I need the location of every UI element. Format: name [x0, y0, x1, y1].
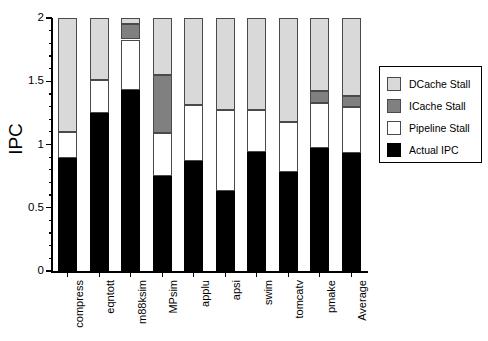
- x-tick: [193, 271, 194, 277]
- y-tick-label: 1.5: [28, 76, 44, 88]
- x-tick-label: apsi: [230, 280, 242, 300]
- bar-segment-dcache: [184, 18, 203, 105]
- legend-swatch-dcache: [387, 77, 401, 91]
- bar-segment-pipeline: [310, 103, 329, 149]
- bar-segment-dcache: [58, 18, 77, 132]
- y-tick: [49, 245, 53, 246]
- y-tick: [46, 17, 52, 18]
- y-tick: [49, 194, 53, 195]
- bar-segment-actual: [58, 158, 77, 271]
- y-tick: [49, 131, 53, 132]
- y-tick: [49, 30, 53, 31]
- legend-label: Pipeline Stall: [409, 122, 470, 134]
- bar-segment-dcache: [279, 18, 298, 122]
- legend-label: Actual IPC: [409, 144, 459, 156]
- legend-swatch-actual: [387, 143, 401, 157]
- bar-segment-dcache: [153, 18, 172, 75]
- bar-segment-actual: [279, 172, 298, 271]
- y-tick: [46, 207, 52, 208]
- legend-swatch-icache: [387, 99, 401, 113]
- bar-segment-icache: [153, 75, 172, 133]
- y-tick-label: 0.5: [28, 202, 44, 214]
- x-tick-label: MPsim: [167, 280, 179, 314]
- ipc-stacked-bar-chart: IPC 00.511.52 compresseqntottm88ksimMPsi…: [0, 0, 488, 341]
- bar-segment-icache: [342, 96, 361, 106]
- y-tick: [49, 68, 53, 69]
- legend-item-actual: Actual IPC: [387, 142, 459, 158]
- y-tick: [49, 55, 53, 56]
- y-tick: [49, 232, 53, 233]
- legend-item-dcache: DCache Stall: [387, 76, 470, 92]
- y-tick: [49, 220, 53, 221]
- y-tick: [49, 258, 53, 259]
- bar-segment-icache: [121, 24, 140, 39]
- x-tick: [288, 271, 289, 277]
- bar-segment-pipeline: [90, 80, 109, 113]
- x-tick-label: eqntott: [104, 280, 116, 314]
- bar-segment-pipeline: [121, 40, 140, 91]
- plot-area: 00.511.52 compresseqntottm88ksimMPsimapp…: [52, 18, 367, 271]
- y-tick: [46, 81, 52, 82]
- x-tick-label: m88ksim: [136, 280, 148, 324]
- x-tick: [256, 271, 257, 277]
- bar-segment-actual: [90, 113, 109, 271]
- y-tick: [46, 144, 52, 145]
- bar-segment-dcache: [216, 18, 235, 110]
- bar-segment-actual: [121, 90, 140, 271]
- x-tick: [225, 271, 226, 277]
- bar-segment-actual: [184, 161, 203, 271]
- bar-compress: [58, 18, 77, 271]
- y-tick: [49, 106, 53, 107]
- y-tick-label: 0: [38, 265, 44, 277]
- x-tick-label: Average: [356, 280, 368, 321]
- x-tick-label: compress: [73, 280, 85, 328]
- bar-segment-actual: [153, 176, 172, 271]
- x-tick-label: swim: [262, 280, 274, 305]
- x-tick-label: tomcatv: [293, 280, 305, 319]
- y-tick: [46, 270, 52, 271]
- bar-mpsim: [153, 18, 172, 271]
- legend-swatch-pipeline: [387, 121, 401, 135]
- bar-m88ksim: [121, 18, 140, 271]
- bar-segment-actual: [247, 152, 266, 271]
- bar-segment-pipeline: [153, 133, 172, 176]
- bar-segment-pipeline: [216, 110, 235, 191]
- y-tick: [49, 182, 53, 183]
- y-tick: [49, 93, 53, 94]
- bar-segment-dcache: [310, 18, 329, 91]
- bar-segment-pipeline: [184, 105, 203, 161]
- bar-segment-pipeline: [342, 107, 361, 154]
- x-tick: [67, 271, 68, 277]
- x-tick: [130, 271, 131, 277]
- x-tick: [162, 271, 163, 277]
- legend-label: ICache Stall: [409, 100, 466, 112]
- bar-pmake: [310, 18, 329, 271]
- x-tick: [319, 271, 320, 277]
- x-tick: [99, 271, 100, 277]
- bar-segment-actual: [216, 191, 235, 271]
- bar-segment-dcache: [90, 18, 109, 80]
- bar-segment-actual: [310, 148, 329, 271]
- y-tick: [49, 169, 53, 170]
- x-tick-label: pmake: [325, 280, 337, 313]
- chart-legend: DCache StallICache StallPipeline StallAc…: [379, 66, 482, 163]
- legend-item-pipeline: Pipeline Stall: [387, 120, 470, 136]
- bar-applu: [184, 18, 203, 271]
- bar-apsi: [216, 18, 235, 271]
- bar-segment-pipeline: [58, 132, 77, 159]
- y-tick: [49, 119, 53, 120]
- bar-swim: [247, 18, 266, 271]
- x-tick-label: applu: [199, 280, 211, 307]
- bar-segment-dcache: [342, 18, 361, 96]
- y-axis-title: IPC: [5, 109, 27, 169]
- y-tick: [49, 43, 53, 44]
- bar-segment-dcache: [247, 18, 266, 110]
- legend-label: DCache Stall: [409, 78, 470, 90]
- bar-eqntott: [90, 18, 109, 271]
- bar-segment-actual: [342, 153, 361, 271]
- x-tick: [351, 271, 352, 277]
- bar-segment-icache: [310, 91, 329, 102]
- y-tick-label: 2: [38, 12, 44, 24]
- y-tick: [49, 157, 53, 158]
- bar-segment-pipeline: [247, 110, 266, 152]
